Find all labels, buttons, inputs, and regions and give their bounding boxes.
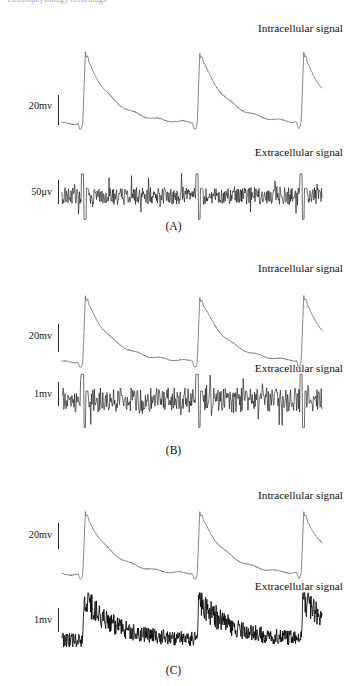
panel-a-intracellular-label: Intracellular signal	[258, 22, 343, 35]
panel-a-intracellular-trace	[62, 48, 322, 130]
panel-c-extracellular-scale-bar	[58, 608, 59, 632]
panel-b-extracellular-trace	[62, 372, 322, 428]
panel-c-intracellular-trace	[62, 508, 322, 580]
panel-b-intracellular-scale-label: 20mv	[8, 330, 52, 342]
panel-a-extracellular-scale-bar	[58, 180, 59, 204]
panel-b-extracellular-scale-label: 1mv	[8, 388, 52, 400]
panel-b-intracellular-trace	[62, 292, 322, 368]
figure-container: electrophysiology recordings Intracellul…	[0, 0, 347, 686]
panel-a-extracellular-trace	[62, 172, 322, 220]
panel-b-intracellular-scale-bar	[58, 324, 59, 352]
panel-b-intracellular-label: Intracellular signal	[258, 262, 343, 275]
panel-c-extracellular-scale-label: 1mv	[8, 614, 52, 626]
panel-c-caption: (C)	[0, 664, 347, 677]
panel-a-extracellular-scale-label: 50μv	[4, 186, 52, 198]
panel-a-intracellular-scale-label: 20mv	[8, 100, 52, 112]
panel-c-intracellular-label: Intracellular signal	[258, 489, 343, 502]
panel-a-intracellular-scale-bar	[58, 95, 59, 125]
panel-a-caption: (A)	[0, 220, 347, 233]
panel-c-intracellular-scale-bar	[58, 523, 59, 549]
panel-b-extracellular-scale-bar	[58, 382, 59, 406]
panel-c-extracellular-trace	[62, 592, 322, 652]
panel-a-extracellular-label: Extracellular signal	[255, 146, 343, 159]
running-head: electrophysiology recordings	[8, 0, 106, 4]
panel-c-intracellular-scale-label: 20mv	[8, 529, 52, 541]
panel-b-caption: (B)	[0, 444, 347, 457]
